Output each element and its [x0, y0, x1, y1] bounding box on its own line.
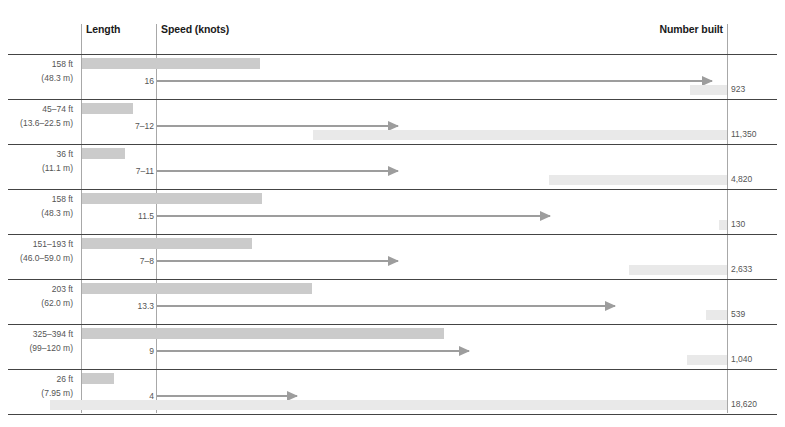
number-built-bar — [706, 310, 727, 320]
length-meters-label: (48.3 m) — [41, 74, 73, 83]
length-feet-label: 158 ft — [52, 60, 73, 69]
speed-range-arrow — [157, 170, 398, 172]
speed-value-label: 11.5 — [94, 211, 154, 221]
length-bar — [82, 58, 260, 69]
length-bar — [82, 148, 125, 159]
length-bar — [82, 103, 133, 114]
number-built-value: 4,820 — [731, 174, 752, 184]
length-feet-label: 36 ft — [56, 150, 73, 159]
speed-value-label: 13.3 — [94, 301, 154, 311]
column-header-speed: Speed (knots) — [161, 23, 229, 35]
chart-row: 26 ft(7.95 m)418,620 — [0, 369, 785, 414]
number-built-bar — [549, 175, 727, 185]
speed-value-label: 9 — [94, 346, 154, 356]
column-header-band: Length Speed (knots) Number built — [0, 0, 785, 49]
comparison-chart: Length Speed (knots) Number built 158 ft… — [0, 0, 785, 427]
speed-range-arrow — [157, 395, 297, 397]
chart-row: 203 ft(62.0 m)13.3539 — [0, 279, 785, 324]
number-built-value: 2,633 — [731, 264, 752, 274]
number-built-bar — [629, 265, 727, 275]
length-meters-label: (7.95 m) — [41, 389, 73, 398]
length-bar — [82, 238, 252, 249]
row-separator-bottom — [8, 414, 777, 415]
chart-row: 45–74 ft(13.6–22.5 m)7–1211,350 — [0, 99, 785, 144]
number-built-value: 1,040 — [731, 354, 752, 364]
column-header-length: Length — [86, 23, 120, 35]
speed-range-arrow — [157, 215, 550, 217]
speed-range-arrow — [157, 260, 398, 262]
length-feet-label: 158 ft — [52, 195, 73, 204]
speed-value-label: 7–8 — [94, 256, 154, 266]
length-bar — [82, 373, 114, 384]
chart-row: 151–193 ft(46.0–59.0 m)7–82,633 — [0, 234, 785, 279]
length-feet-label: 203 ft — [52, 285, 73, 294]
speed-range-arrow — [157, 125, 398, 127]
number-built-bar — [50, 400, 727, 410]
speed-value-label: 16 — [94, 76, 154, 86]
length-meters-label: (11.1 m) — [42, 164, 73, 173]
chart-row: 325–394 ft(99–120 m)91,040 — [0, 324, 785, 369]
length-meters-label: (46.0–59.0 m) — [20, 254, 73, 263]
number-built-bar — [313, 130, 727, 140]
number-built-value: 11,350 — [731, 129, 756, 139]
length-feet-label: 26 ft — [56, 375, 73, 384]
chart-row: 158 ft(48.3 m)16923 — [0, 54, 785, 99]
number-built-value: 923 — [731, 84, 745, 94]
number-built-bar — [687, 355, 727, 365]
length-bar — [82, 283, 312, 294]
length-meters-label: (13.6–22.5 m) — [20, 119, 73, 128]
chart-row: 36 ft(11.1 m)7–114,820 — [0, 144, 785, 189]
length-meters-label: (62.0 m) — [41, 299, 73, 308]
number-built-value: 539 — [731, 309, 745, 319]
length-meters-label: (48.3 m) — [41, 209, 73, 218]
speed-value-label: 7–12 — [94, 121, 154, 131]
length-feet-label: 151–193 ft — [33, 240, 73, 249]
number-built-value: 18,620 — [731, 399, 757, 409]
speed-range-arrow — [157, 350, 469, 352]
number-built-value: 130 — [731, 219, 745, 229]
speed-value-label: 7–11 — [94, 166, 154, 176]
number-built-bar — [690, 85, 727, 95]
length-meters-label: (99–120 m) — [30, 344, 73, 353]
length-feet-label: 45–74 ft — [42, 105, 73, 114]
chart-row: 158 ft(48.3 m)11.5130 — [0, 189, 785, 234]
length-bar — [82, 193, 262, 204]
speed-range-arrow — [157, 305, 615, 307]
column-header-number-built: Number built — [659, 23, 723, 35]
length-feet-label: 325–394 ft — [33, 330, 73, 339]
length-bar — [82, 328, 444, 339]
number-built-bar — [719, 220, 727, 230]
speed-range-arrow — [157, 80, 712, 82]
